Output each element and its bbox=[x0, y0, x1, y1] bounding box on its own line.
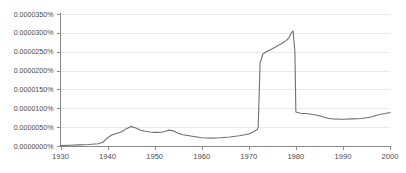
y-axis-tick-label: 0.0000050% bbox=[14, 124, 55, 132]
x-axis-tick-label: 2000 bbox=[382, 152, 399, 161]
x-axis-tick-label: 1990 bbox=[334, 152, 351, 161]
y-axis-tick-label: 0.0000350% bbox=[14, 11, 55, 19]
x-axis-tick-label: 1930 bbox=[52, 152, 69, 161]
y-axis-tick-label: 0.0000250% bbox=[14, 48, 55, 56]
y-axis-tick-label: 0.0000200% bbox=[14, 67, 55, 75]
y-axis-tick-label: 0.0000100% bbox=[14, 105, 55, 113]
frequency-line-series bbox=[61, 31, 391, 146]
x-axis-tick-label: 1970 bbox=[240, 152, 257, 161]
ngram-chart: 0.0000000%0.0000050%0.0000100%0.0000150%… bbox=[0, 0, 406, 173]
gridlines-group bbox=[61, 15, 391, 128]
x-axis-tick-label: 1980 bbox=[287, 152, 304, 161]
x-axis-tick-label: 1960 bbox=[193, 152, 210, 161]
y-axis-labels: 0.0000000%0.0000050%0.0000100%0.0000150%… bbox=[14, 11, 55, 151]
y-axis-tick-label: 0.0000300% bbox=[14, 29, 55, 37]
x-axis-labels: 19301940195019601970198019902000 bbox=[52, 152, 398, 161]
y-axis-tick-label: 0.0000000% bbox=[14, 143, 55, 151]
x-axis-tick-label: 1950 bbox=[146, 152, 163, 161]
x-axis-tick-label: 1940 bbox=[99, 152, 116, 161]
y-axis-tick-label: 0.0000150% bbox=[14, 86, 55, 94]
chart-plot-area: 0.0000000%0.0000050%0.0000100%0.0000150%… bbox=[0, 0, 406, 173]
